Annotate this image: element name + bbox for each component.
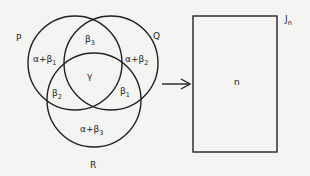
set-label-p: P: [16, 33, 22, 43]
venn-mapping-diagram: P Q R α+β1 α+β2 α+β3 β3 β2 β1 γ Jn n: [0, 0, 310, 176]
region-p-q-r: γ: [87, 71, 93, 81]
region-p-and-r: β2: [52, 88, 62, 101]
region-q-and-r: β1: [120, 86, 130, 99]
region-r-only: α+β3: [80, 124, 103, 137]
target-set-content: n: [234, 77, 240, 87]
region-p-only: α+β1: [33, 54, 56, 67]
set-label-q: Q: [153, 31, 160, 41]
target-set-label: Jn: [284, 14, 292, 27]
region-q-only: α+β2: [125, 54, 148, 67]
set-label-r: R: [90, 160, 96, 170]
region-p-and-q: β3: [85, 34, 95, 47]
